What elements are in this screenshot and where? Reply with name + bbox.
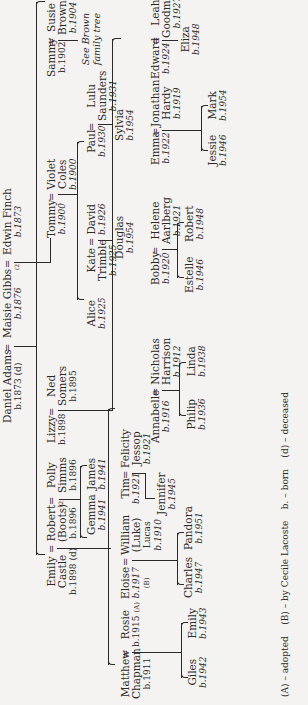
descent-line [162,130,202,131]
marriage-symbol: = [121,558,131,566]
marriage-symbol: = [121,471,131,479]
person-maisie-gibbs: Maisie Gibbs b.1876 [2,269,24,338]
descent-line [58,410,113,411]
person-alice: Alice b.1925 [86,297,108,329]
person-philip: Philip b.1936 [186,398,208,430]
sibling-bar-eloise-william [177,533,178,585]
family-tree-diagram: Daniel Adams b.1873 (d) = Maisie Gibbs b… [0,0,308,705]
legend-adopted: (A) – adopted [280,636,290,697]
descent-line [58,194,78,195]
person-robert-jr: Robert b.1948 [184,206,206,242]
sibling-bar-emma-jonathan [201,106,202,151]
person-bobby: Bobby b.1920 [150,252,172,285]
person-sylvia: Sylvia b.1954 [114,109,136,141]
person-pandora: Pandora b.1951 [183,506,205,550]
person-annabelle: Annabelle b.1916 [150,390,172,443]
sibling-bar-emily-robert [108,409,109,665]
marriage-symbol: = [151,128,161,136]
person-lizzy: Lizzy b.1898 [46,413,68,445]
sibling-bar-end [36,1,45,8]
descent-line [14,346,37,347]
see-brown-family-tree-note: See Brown family tree [80,9,102,69]
person-emily-castle: Emily Castle b.1898 (d) [46,548,79,595]
sibling-bar-tommy-violet [77,142,78,300]
person-jonathan-hardy: Jonathan Hardy b.1919 [150,79,183,127]
descent-line [98,124,112,125]
person-susie-brown: Susie Brown b.1904 [46,0,79,35]
person-violet-coles: Violet Coles b.1900 [46,158,79,190]
sibling-bar-bobby-helene [177,223,178,278]
person-edwin-finch: Edwin Finch b.1873 [2,188,24,255]
person-eliza: Eliza b.1948 [180,23,202,55]
by-cecile-mark: (B) [142,567,153,599]
descent-line [57,548,111,549]
person-estelle: Estelle b.1946 [184,257,206,293]
descent-line [145,473,146,499]
marriage-symbol: = [3,260,13,268]
marriage-symbol: = [47,408,57,416]
sibling-bar-end [77,141,84,147]
person-mark: Mark b.1954 [207,89,229,121]
legend-born: b. – born [280,469,290,509]
descent-line [145,498,155,499]
person-robert-boots: Robert (Boots) b.1896 [46,504,79,542]
descent-line [59,499,81,500]
person-linda: Linda b.1938 [186,345,208,377]
descent-line [132,560,178,561]
person-jessie: Jessie b.1946 [207,134,229,166]
legend-by-cecile: (B) – by Cecile Lacoste [280,521,290,625]
sibling-bar-matthew-rosie [181,623,182,678]
descent-line [58,40,78,41]
person-tommy: Tommy b.1900 [46,200,68,238]
descent-line [50,238,51,263]
person-daniel-adams: Daniel Adams b.1873 (d) [2,349,24,423]
marriage-symbol: = [47,545,57,553]
descent-line [162,249,178,250]
marriage-symbol: = [87,238,97,246]
sibling-bar-annabelle-nicholas [179,363,180,416]
person-emily: Emily b.1943 [187,607,209,639]
descent-line [162,390,180,391]
descent-line [162,40,178,41]
marriage-symbol: = [47,497,57,505]
sibling-bar-robert-polly [80,466,81,538]
marriage-symbol: = [151,247,161,255]
person-douglas: Douglas b.1954 [114,216,136,259]
marriage-symbol: = [47,38,57,46]
person-emma: Emma b.1922 [150,131,172,165]
sibling-bar-end [112,38,121,45]
sibling-bar-start [108,659,115,665]
person-ned-somers: Ned Somers b.1895 [46,366,79,406]
person-william-lucas: William (Luke) Lucas b.1910 [120,515,164,555]
descent-line [132,473,146,474]
person-giles: Giles b.1942 [187,656,209,688]
person-james: James b.1941 [86,458,108,490]
person-eloise: Eloise b.1917 (B) [120,567,153,599]
sibling-bar-start [77,294,84,300]
person-polly-simms: Polly Simms b.1896 [46,457,79,493]
sibling-bar-start [36,548,45,555]
marriage-symbol: = [87,123,97,131]
person-jennifer: Jennifer b.1945 [156,473,178,515]
descent-line [98,240,112,241]
legend: (A) – adopted (B) – by Cecile Lacoste b.… [280,392,290,697]
marriage-symbol: = [3,344,13,352]
descent-line [132,652,182,653]
descent-line [14,262,51,263]
person-rosie: Rosie b.1915 (A) [120,602,143,647]
marriage-symbol: = [151,388,161,396]
marriage-symbol: = [47,193,57,201]
adopted-mark: (A) [133,602,141,613]
person-gemma: Gemma b.1941 [86,494,108,535]
person-charles: Charles b.1947 [183,557,205,598]
marriage-symbol: = [121,650,131,658]
person-david: David b.1926 [86,203,108,235]
legend-deceased: (d) – deceased [280,392,290,458]
sibling-bar-gen2 [36,2,37,555]
